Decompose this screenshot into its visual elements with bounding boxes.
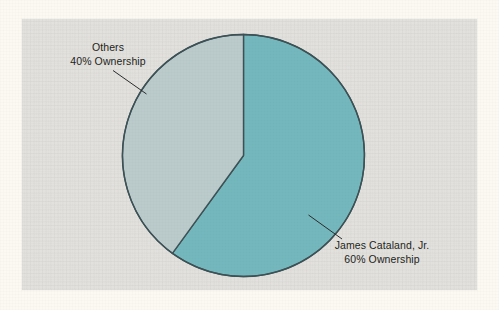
pie-label-others: Others 40% Ownership [48, 41, 168, 68]
pie-label-others-line2: 40% Ownership [48, 55, 168, 69]
pie-chart-canvas: Others 40% Ownership James Cataland, Jr.… [0, 0, 499, 310]
pie-label-others-line1: Others [92, 41, 124, 53]
pie-label-james-cataland-jr: James Cataland, Jr. 60% Ownership [318, 239, 446, 266]
leader-line-others [113, 71, 147, 95]
pie-label-owner-line2: 60% Ownership [318, 253, 446, 267]
pie-label-owner-line1: James Cataland, Jr. [335, 239, 430, 251]
